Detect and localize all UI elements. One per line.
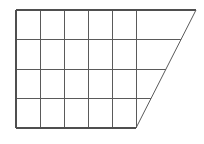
diagram-background [0,0,204,144]
figure-container [0,0,204,144]
trapezoid-grid-diagram [0,0,204,144]
